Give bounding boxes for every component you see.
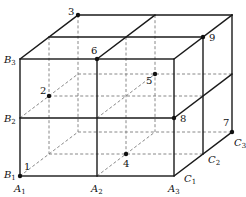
point-9-dot <box>201 35 205 39</box>
point-1-dot <box>18 174 22 178</box>
point-1-label: 1 <box>24 161 30 172</box>
point-5-dot <box>153 72 157 76</box>
point-5-label: 5 <box>146 75 152 86</box>
point-9-label: 9 <box>209 32 215 43</box>
vertex-label-b2: B2 <box>3 113 16 126</box>
point-7-dot <box>230 130 234 134</box>
point-6-dot <box>95 57 99 61</box>
vertex-label-b1: B1 <box>3 169 16 182</box>
vertex-label-c2: C2 <box>208 154 220 167</box>
point-3-dot <box>76 13 80 17</box>
vertex-label-a3: A3 <box>167 183 180 196</box>
box-diagram: 123456789 B3B2B1A1A2A3C1C2C3 <box>0 0 246 197</box>
point-2-label: 2 <box>40 85 46 96</box>
point-4-label: 4 <box>123 158 129 169</box>
vertex-label-b3: B3 <box>3 54 16 67</box>
diagram-canvas: 123456789 B3B2B1A1A2A3C1C2C3 <box>0 0 246 197</box>
vertex-label-c1: C1 <box>184 173 196 186</box>
vertex-label-a1: A1 <box>13 183 26 196</box>
point-8-dot <box>172 116 176 120</box>
vertex-labels: B3B2B1A1A2A3C1C2C3 <box>3 54 246 196</box>
vertex-label-a2: A2 <box>90 183 103 196</box>
vertex-label-c3: C3 <box>234 137 246 150</box>
point-3-label: 3 <box>68 6 74 17</box>
numbered-points: 123456789 <box>18 6 234 178</box>
point-7-label: 7 <box>223 117 229 128</box>
point-6-label: 6 <box>91 45 97 56</box>
point-2-dot <box>47 94 51 98</box>
point-4-dot <box>124 152 128 156</box>
point-8-label: 8 <box>180 113 186 124</box>
